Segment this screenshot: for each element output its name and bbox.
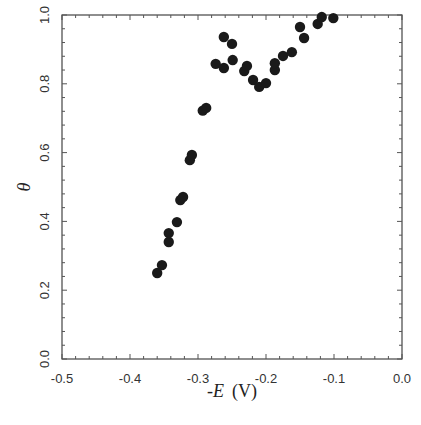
data-point <box>328 13 338 23</box>
data-point <box>187 150 197 160</box>
data-point <box>164 237 174 247</box>
y-tick-label: 0.2 <box>37 281 52 299</box>
data-point <box>242 61 252 71</box>
x-tick-label: -0.5 <box>51 371 73 386</box>
y-tick-label: 1.0 <box>37 6 52 24</box>
y-tick-label: 0.8 <box>37 75 52 93</box>
axis-ticks <box>62 15 402 359</box>
data-point <box>287 47 297 57</box>
x-tick-label: -0.3 <box>187 371 209 386</box>
y-tick-label: 0.6 <box>37 144 52 162</box>
data-point <box>295 22 305 32</box>
data-point <box>317 12 327 22</box>
data-point <box>201 103 211 113</box>
data-point <box>270 58 280 68</box>
data-points <box>152 12 339 278</box>
x-tick-label: 0.0 <box>393 371 411 386</box>
data-point <box>178 192 188 202</box>
plot-frame <box>62 15 402 359</box>
x-axis-label: -E(V) <box>207 381 257 402</box>
data-point <box>261 78 271 88</box>
data-point <box>157 260 167 270</box>
y-tick-label: 0.0 <box>37 350 52 368</box>
data-point <box>219 63 229 73</box>
data-point <box>227 55 237 65</box>
x-tick-labels: -0.5-0.4-0.3-0.2-0.10.0 <box>51 371 411 386</box>
y-tick-label: 0.4 <box>37 212 52 230</box>
y-tick-labels: 0.00.20.40.60.81.0 <box>37 6 52 368</box>
x-tick-label: -0.2 <box>255 371 277 386</box>
data-point <box>164 228 174 238</box>
data-point <box>172 217 182 227</box>
x-tick-label: -0.4 <box>119 371 141 386</box>
y-axis-label: θ <box>14 182 34 191</box>
data-point <box>219 32 229 42</box>
data-point <box>278 51 288 61</box>
data-point <box>299 33 309 43</box>
scatter-chart: -0.5-0.4-0.3-0.2-0.10.0 0.00.20.40.60.81… <box>0 0 421 425</box>
data-point <box>227 39 237 49</box>
x-tick-label: -0.1 <box>323 371 345 386</box>
